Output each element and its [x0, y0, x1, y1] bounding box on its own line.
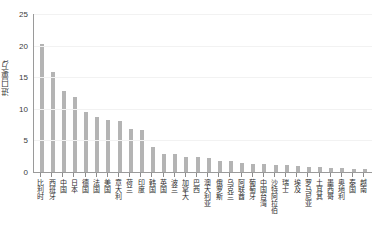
- x-label-slot: 法国: [91, 179, 102, 249]
- x-label-slot: 韩国: [146, 179, 157, 249]
- x-axis-tick: [163, 173, 164, 177]
- bar[interactable]: [129, 129, 133, 172]
- x-axis-tick-label: 乌克兰: [226, 179, 234, 200]
- gridline: [34, 46, 372, 47]
- bar[interactable]: [207, 158, 211, 172]
- x-axis-tick: [263, 173, 264, 177]
- x-tick-slot: [258, 173, 269, 177]
- x-axis-tick: [307, 173, 308, 177]
- x-tick-slot: [35, 173, 46, 177]
- bar[interactable]: [340, 168, 344, 172]
- bar[interactable]: [218, 161, 222, 172]
- x-axis-tick: [62, 173, 63, 177]
- bar-slot: [259, 14, 270, 172]
- bar-chart: 进口量/万t 0510152025 比利时西班牙中国日本德国法国美国意大利荷兰印…: [0, 0, 374, 249]
- x-tick-slot: [158, 173, 169, 177]
- x-axis-tick-label: 法国: [92, 179, 100, 193]
- x-tick-slot: [135, 173, 146, 177]
- x-label-slot: 土耳其: [314, 179, 325, 249]
- bar[interactable]: [296, 166, 300, 172]
- x-tick-slot: [280, 173, 291, 177]
- bar[interactable]: [229, 161, 233, 172]
- bar[interactable]: [329, 168, 333, 172]
- bar[interactable]: [95, 117, 99, 172]
- bar-slot: [270, 14, 281, 172]
- bar-slot: [337, 14, 348, 172]
- x-label-slot: 葡萄牙: [247, 179, 258, 249]
- x-tick-slot: [269, 173, 280, 177]
- bar[interactable]: [51, 72, 55, 172]
- x-tick-slot: [169, 173, 180, 177]
- bar[interactable]: [318, 167, 322, 172]
- x-axis-tick-label: 埃及: [293, 179, 301, 193]
- x-axis-tick: [330, 173, 331, 177]
- x-axis-tick-label: 巴西: [193, 179, 201, 193]
- bar[interactable]: [84, 112, 88, 172]
- bar[interactable]: [118, 121, 122, 172]
- bar[interactable]: [140, 130, 144, 172]
- x-tick-slot: [146, 173, 157, 177]
- y-axis-tick-label: 10: [19, 104, 28, 113]
- x-axis-tick: [274, 173, 275, 177]
- x-axis-tick-label: 俄罗斯: [215, 179, 223, 200]
- x-axis-tick: [151, 173, 152, 177]
- bar-slot: [159, 14, 170, 172]
- bar[interactable]: [173, 154, 177, 172]
- bar[interactable]: [307, 167, 311, 172]
- bar-slot: [248, 14, 259, 172]
- x-tick-slot: [247, 173, 258, 177]
- bar-slot: [203, 14, 214, 172]
- bar[interactable]: [184, 157, 188, 172]
- x-axis-tick-label: 意大利: [115, 179, 123, 200]
- x-axis-tick: [40, 173, 41, 177]
- bar-slot: [315, 14, 326, 172]
- gridline: [34, 14, 372, 15]
- x-label-slot: 意大利: [113, 179, 124, 249]
- bar[interactable]: [106, 120, 110, 172]
- x-tick-slot: [213, 173, 224, 177]
- bar[interactable]: [285, 165, 289, 172]
- y-axis-tick-label: 5: [24, 136, 28, 145]
- x-tick-slot: [336, 173, 347, 177]
- bar[interactable]: [274, 165, 278, 172]
- x-axis-tick-label: 泰国: [349, 179, 357, 193]
- bar[interactable]: [251, 164, 255, 172]
- bar-slot: [292, 14, 303, 172]
- x-axis-tick-label: 罗马尼亚: [304, 179, 312, 207]
- x-tick-slot: [124, 173, 135, 177]
- bar-slot: [181, 14, 192, 172]
- bar-slot: [237, 14, 248, 172]
- x-tick-slot: [314, 173, 325, 177]
- bar-slot: [92, 14, 103, 172]
- x-label-slot: 中国: [57, 179, 68, 249]
- x-axis-tick: [218, 173, 219, 177]
- x-axis-tick: [196, 173, 197, 177]
- x-label-slot: 埃及: [291, 179, 302, 249]
- bar[interactable]: [262, 164, 266, 172]
- x-axis-tick: [241, 173, 242, 177]
- bar[interactable]: [240, 163, 244, 172]
- plot-area: [33, 14, 372, 173]
- x-label-slot: 阿联酋: [236, 179, 247, 249]
- x-label-slot: 印度: [135, 179, 146, 249]
- bar[interactable]: [196, 157, 200, 172]
- bar[interactable]: [363, 169, 367, 172]
- bar-slot: [69, 14, 80, 172]
- bar[interactable]: [162, 154, 166, 172]
- y-axis-tick-label: 25: [19, 10, 28, 19]
- x-tick-slot: [302, 173, 313, 177]
- bar[interactable]: [352, 169, 356, 172]
- gridline: [34, 140, 372, 141]
- x-label-slot: 比利时: [35, 179, 46, 249]
- x-tick-slot: [113, 173, 124, 177]
- x-axis-tick: [363, 173, 364, 177]
- x-label-slot: 墨西哥: [325, 179, 336, 249]
- bar[interactable]: [62, 91, 66, 172]
- x-label-slot: 俄罗斯: [213, 179, 224, 249]
- x-axis-tick: [352, 173, 353, 177]
- x-tick-slot: [180, 173, 191, 177]
- x-axis-tick: [129, 173, 130, 177]
- x-axis-tick: [107, 173, 108, 177]
- bar[interactable]: [151, 147, 155, 172]
- bar-slot: [47, 14, 58, 172]
